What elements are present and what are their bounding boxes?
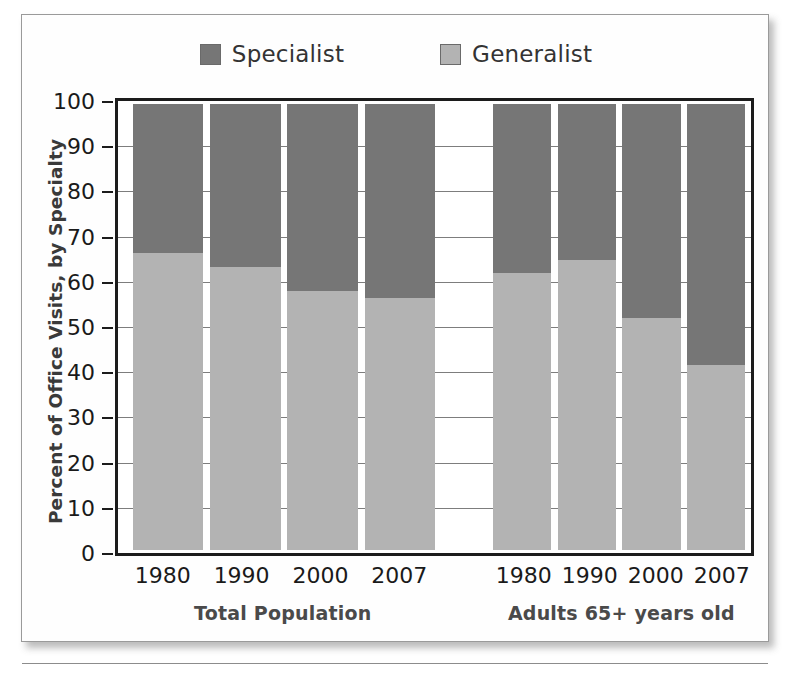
y-tick-label: 70 <box>67 224 95 249</box>
group-gap <box>450 104 488 550</box>
y-tick-label: 60 <box>67 269 95 294</box>
y-tick-label: 80 <box>67 179 95 204</box>
bar-slot <box>558 104 616 550</box>
table-row[interactable] <box>287 104 358 550</box>
bar-slot <box>365 104 436 550</box>
x-label-tp-1980: 1980 <box>127 563 199 593</box>
y-tick-label: 90 <box>67 134 95 159</box>
segment-generalist[interactable] <box>287 291 358 550</box>
x-label-tp-1990: 1990 <box>206 563 278 593</box>
segment-specialist[interactable] <box>622 104 680 318</box>
group-title-adults-65-plus: Adults 65+ years old <box>489 602 754 632</box>
y-tick-label: 30 <box>67 405 95 430</box>
bar-group-adults-65-plus <box>488 104 748 550</box>
x-label-a65-1990: 1990 <box>560 563 619 593</box>
segment-specialist[interactable] <box>210 104 281 267</box>
bottom-divider <box>22 663 768 664</box>
bar-container <box>121 104 748 550</box>
generalist-swatch-icon <box>440 44 461 65</box>
legend-entry-specialist: Specialist <box>200 41 344 67</box>
segment-specialist[interactable] <box>133 104 204 253</box>
segment-specialist[interactable] <box>687 104 745 365</box>
segment-generalist[interactable] <box>133 253 204 550</box>
x-label-a65-2000: 2000 <box>626 563 685 593</box>
segment-specialist[interactable] <box>365 104 436 298</box>
figure-page: Specialist Generalist Percent of Office … <box>0 0 804 676</box>
segment-specialist[interactable] <box>493 104 551 273</box>
group-titles: Total Population Adults 65+ years old <box>115 602 754 632</box>
table-row[interactable] <box>687 104 745 550</box>
segment-generalist[interactable] <box>493 273 551 550</box>
table-row[interactable] <box>210 104 281 550</box>
y-tick-label: 10 <box>67 495 95 520</box>
x-label-a65-1980: 1980 <box>494 563 553 593</box>
y-tick-label: 40 <box>67 360 95 385</box>
bar-slot <box>493 104 551 550</box>
segment-specialist[interactable] <box>287 104 358 291</box>
segment-generalist[interactable] <box>558 260 616 550</box>
x-label-tp-2000: 2000 <box>284 563 356 593</box>
bar-slot <box>133 104 204 550</box>
y-tick-label: 0 <box>81 541 95 566</box>
legend-label-generalist: Generalist <box>472 41 592 67</box>
segment-generalist[interactable] <box>622 318 680 550</box>
bar-group-total-population <box>121 104 450 550</box>
chart-legend: Specialist Generalist <box>22 41 770 67</box>
table-row[interactable] <box>493 104 551 550</box>
bar-slot <box>687 104 745 550</box>
bar-slot <box>210 104 281 550</box>
table-row[interactable] <box>622 104 680 550</box>
x-label-a65-2007: 2007 <box>692 563 751 593</box>
x-label-tp-2007: 2007 <box>363 563 435 593</box>
y-tick-label: 20 <box>67 450 95 475</box>
plot-area: 100 90 80 70 60 <box>115 98 754 556</box>
bar-slot <box>287 104 358 550</box>
segment-generalist[interactable] <box>365 298 436 550</box>
table-row[interactable] <box>133 104 204 550</box>
y-tick-label: 50 <box>67 315 95 340</box>
segment-generalist[interactable] <box>210 267 281 550</box>
specialist-swatch-icon <box>200 44 221 65</box>
y-tick-label: 100 <box>53 89 95 114</box>
legend-label-specialist: Specialist <box>232 41 344 67</box>
bar-slot <box>622 104 680 550</box>
figure-frame: Specialist Generalist Percent of Office … <box>21 14 769 642</box>
plot-frame <box>115 98 754 556</box>
table-row[interactable] <box>365 104 436 550</box>
legend-entry-generalist: Generalist <box>440 41 592 67</box>
y-axis-title: Percent of Office Visits, by Specialty <box>45 122 66 542</box>
segment-specialist[interactable] <box>558 104 616 260</box>
group-title-total-population: Total Population <box>115 602 450 632</box>
table-row[interactable] <box>558 104 616 550</box>
segment-generalist[interactable] <box>687 365 745 550</box>
x-axis-labels: 1980 1990 2000 2007 1980 1990 2000 2007 <box>115 563 754 593</box>
